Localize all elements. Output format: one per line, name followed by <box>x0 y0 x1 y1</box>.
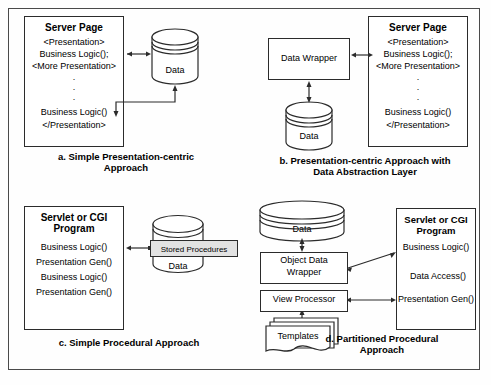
panel-b-arrow-wrapper-to-data <box>307 81 312 103</box>
panel-a-datastore-label: Data <box>152 66 198 75</box>
panel-d-arrow-viewprocessor-to-presentationgen <box>346 298 396 303</box>
panel-c-stored-procedures-box: Stored Procedures <box>150 240 238 257</box>
panel-d-caption-line2: Approach <box>284 345 480 356</box>
panel-d-line-data-access: Data Access() <box>394 272 482 281</box>
panel-d-datastore-cylinder <box>260 201 344 241</box>
panel-b-arrow-wrapper-to-serverpage <box>351 53 373 58</box>
panel-b-presentation-centric-with-dal: Data Wrapper Server Page <Presentation> … <box>252 14 478 184</box>
panel-d-datastore-label: Data <box>279 225 325 234</box>
panel-d-object-data-wrapper-line1: Object Data <box>260 256 348 265</box>
panel-b-caption-line2: Data Abstraction Layer <box>252 167 478 178</box>
panel-a-arrow-bidirectional <box>127 52 151 57</box>
panel-c-arrow-storedproc-to-program <box>126 246 152 251</box>
panel-a-simple-presentation-centric: Server Page <Presentation> Business Logi… <box>18 14 234 176</box>
panel-d-arrow-wrapper-to-dataaccess <box>346 252 396 272</box>
panel-d-view-processor-label: View Processor <box>260 295 348 304</box>
panel-d-object-data-wrapper-line2: Wrapper <box>260 268 348 277</box>
panel-d-program-title-line2: Program <box>392 226 480 236</box>
panel-c-graphics <box>18 200 240 350</box>
panel-c-datastore-label: Data <box>155 262 201 271</box>
panel-d-program-title-line1: Servlet or CGI <box>392 215 480 225</box>
figure-canvas: Server Page <Presentation> Business Logi… <box>0 0 491 385</box>
panel-a-caption-line2: Approach <box>18 163 234 174</box>
panel-a-arrow-feedback <box>114 85 178 117</box>
panel-d-line-business-logic: Business Logic() <box>392 243 480 252</box>
panel-d-line-presentation-gen: Presentation Gen() <box>392 295 480 304</box>
panel-d-partitioned-procedural: Data Object Data Wrapper View Processor … <box>248 194 480 362</box>
panel-a-datastore-cylinder <box>152 29 198 84</box>
panel-b-datastore-cylinder <box>286 102 332 150</box>
panel-c-simple-procedural: Servlet or CGI Program Business Logic() … <box>18 200 240 350</box>
panel-b-datastore-label: Data <box>286 132 332 141</box>
panel-c-caption-line1: c. Simple Procedural Approach <box>18 338 240 349</box>
